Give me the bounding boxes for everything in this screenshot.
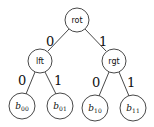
leaf-b00: b00 bbox=[9, 93, 35, 119]
edge-left-b00 bbox=[26, 72, 35, 94]
leaf-b01: b01 bbox=[47, 93, 73, 119]
node-left: lft bbox=[28, 49, 52, 73]
edge-label-left-b00: 0 bbox=[18, 73, 26, 88]
edge-label-right-b11: 1 bbox=[127, 75, 135, 90]
leaf-b11: b11 bbox=[120, 95, 146, 121]
leaf-b10: b10 bbox=[82, 95, 108, 121]
node-right: rgt bbox=[102, 49, 126, 73]
node-left-label: lft bbox=[36, 57, 44, 66]
edge-right-b10 bbox=[99, 72, 109, 96]
node-right-label: rgt bbox=[108, 57, 119, 66]
binary-tree-diagram: 0 1 0 1 0 1 rot lft rgt b00 b01 b10 b11 bbox=[0, 0, 154, 127]
node-root: rot bbox=[65, 8, 89, 32]
node-root-label: rot bbox=[71, 16, 82, 25]
edge-label-root-right: 1 bbox=[99, 34, 107, 49]
edge-label-right-b10: 0 bbox=[92, 75, 100, 90]
edge-label-root-left: 0 bbox=[46, 34, 54, 49]
edge-label-left-b01: 1 bbox=[54, 73, 62, 88]
